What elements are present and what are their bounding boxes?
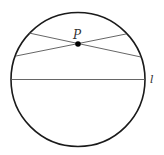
chord-2 bbox=[16, 34, 126, 56]
line-l-label: l bbox=[150, 73, 154, 86]
geometry-diagram: P l bbox=[0, 0, 164, 155]
point-p bbox=[75, 41, 81, 47]
point-p-label: P bbox=[72, 28, 82, 42]
chord-1 bbox=[29, 33, 141, 57]
